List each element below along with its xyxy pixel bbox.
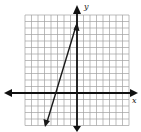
line-upper-arrow-icon [74,22,80,31]
y-axis-down-arrow-icon [73,126,81,132]
coordinate-graph [0,0,141,132]
plotted-line [44,22,80,127]
x-axis [4,89,138,97]
x-axis-left-arrow-icon [4,89,12,97]
x-axis-label: x [132,96,137,105]
y-axis-up-arrow-icon [73,5,81,14]
y-axis-label: y [84,2,89,11]
